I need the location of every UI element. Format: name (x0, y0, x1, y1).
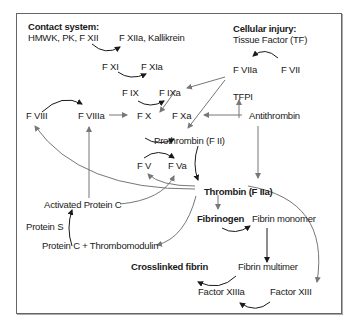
node-f5a: F Va (168, 160, 187, 171)
cellular-injury-header: Cellular injury: (233, 23, 296, 34)
node-f10: F X (137, 110, 151, 121)
node-factor-13a: Factor XIIIa (198, 286, 245, 297)
node-antithrombin: Antithrombin (249, 110, 300, 121)
node-protein-c-thrombomodulin: Protein C + Thrombomodulin (42, 240, 158, 251)
node-tfpi: TFPI (233, 91, 253, 102)
node-f10a: F Xa (172, 110, 191, 121)
node-f12a-kallikrein: F XIIa, Kallikrein (119, 32, 185, 43)
arrow-fibrinogen-monomer (222, 226, 250, 232)
node-f8: F VIII (26, 110, 48, 121)
contact-factors: HMWK, PK, F XII (28, 32, 98, 43)
arrow-f9-activation (138, 101, 164, 105)
arrow-f11-activation (118, 72, 146, 77)
node-f8a: F VIIIa (78, 110, 105, 121)
node-f11: F XI (102, 61, 119, 72)
node-activated-protein-c: Activated Protein C (44, 199, 122, 210)
arrow-apc-f5a (120, 176, 174, 204)
node-thrombin: Thrombin (F IIa) (204, 186, 273, 197)
arrow-f7a-f10a (188, 80, 225, 128)
arrow-thrombin-proteinc (157, 196, 196, 245)
node-f7: F VII (281, 64, 300, 75)
node-factor-13: Factor XIII (270, 286, 312, 297)
node-fibrinogen: Fibrinogen (197, 213, 244, 224)
node-fibrin-multimer: Fibrin multimer (238, 261, 298, 272)
node-f7a: F VIIa (233, 64, 257, 75)
node-prothrombin: Prothrombin (F II) (154, 135, 225, 146)
arrow-f5-activation (144, 153, 174, 159)
node-protein-s: Protein S (26, 221, 63, 232)
arrow-prothrombin-thrombin (195, 146, 198, 180)
contact-system-header: Contact system: (28, 21, 99, 32)
arrow-f7a-f9a (187, 77, 225, 88)
node-crosslinked-fibrin: Crosslinked fibrin (131, 261, 208, 272)
node-f5: F V (137, 160, 151, 171)
node-f9: F IX (122, 87, 139, 98)
arrow-f12-activation (92, 44, 120, 51)
arrow-f13-activation (240, 302, 270, 308)
node-tissue-factor: Tissue Factor (TF) (233, 34, 307, 45)
node-f11a: F XIa (141, 61, 163, 72)
arrow-f8-activation (42, 100, 82, 112)
node-f9a: F IXa (159, 87, 181, 98)
node-fibrin-monomer: Fibrin monomer (252, 213, 316, 224)
arrow-f7-activation (253, 51, 278, 58)
arrow-multimer-crosslinked (198, 276, 236, 286)
